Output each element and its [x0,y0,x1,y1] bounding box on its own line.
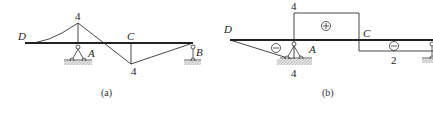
label-b-C: C [363,27,371,39]
label-a-D: D [17,30,26,42]
value-a-valley: 4 [131,65,137,77]
label-a-B: B [196,46,203,58]
minus-sign-right-icon [390,42,399,51]
plus-sign-icon [322,22,331,31]
caption-b: (b) [322,87,334,99]
diagram-canvas: D A C B 4 4 (a) [0,0,433,113]
diagram-b-positive [294,13,359,40]
value-b-bottom-a: 4 [291,67,297,79]
label-a-C: C [127,30,135,42]
figure-b: D A C 4 4 2 (b) [223,0,433,99]
label-b-D: D [223,23,232,35]
figure-a: D A C B 4 4 (a) [17,10,203,99]
value-a-peak: 4 [75,10,81,22]
value-b-bottom-c: 2 [391,54,397,66]
diagram-b-negative-left [230,40,294,60]
link-support-b-b-icon [422,42,433,63]
pin-support-b-a-icon [277,42,312,65]
caption-a: (a) [101,87,112,99]
minus-sign-left-icon [272,44,281,53]
label-b-A: A [308,43,316,55]
value-b-top: 4 [291,0,297,12]
label-a-A: A [87,47,95,59]
